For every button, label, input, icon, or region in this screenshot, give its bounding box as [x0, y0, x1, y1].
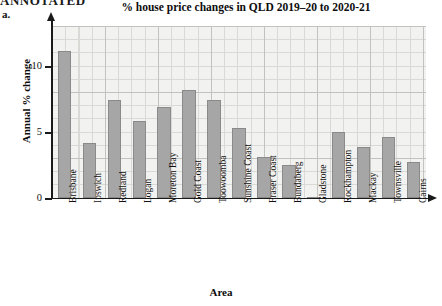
x-tick-label-sunshine-coast: Sunshine Coast — [243, 144, 253, 203]
x-tick-label-townsville: Townsville — [393, 161, 403, 203]
y-axis-arrow — [47, 12, 55, 21]
chart-title: % house price changes in QLD 2019–20 to … — [96, 1, 396, 13]
exercise-label: a. — [2, 8, 10, 20]
y-axis-title: Annual % change — [20, 41, 32, 161]
y-tick-mark-0 — [45, 198, 52, 200]
y-tick-mark-10 — [45, 66, 52, 68]
x-tick-label-logan: Logan — [143, 179, 153, 203]
x-tick-label-mackay: Mackay — [368, 172, 378, 203]
x-tick-label-rockhampton: Rockhampton — [343, 150, 353, 203]
x-axis-arrow — [428, 194, 437, 202]
y-axis-line — [51, 18, 53, 199]
x-tick-label-cairns: Cairns — [418, 178, 428, 203]
x-tick-label-moreton-bay: Moreton Bay — [168, 153, 178, 203]
x-tick-label-ipswich: Ipswich — [93, 173, 103, 203]
x-tick-label-brisbane: Brisbane — [68, 169, 78, 203]
x-axis-title: Area — [0, 286, 442, 298]
y-tick-label-0: 0 — [20, 192, 42, 203]
x-tick-label-gold-coast: Gold Coast — [193, 160, 203, 203]
x-tick-label-fraser-coast: Fraser Coast — [268, 155, 278, 203]
x-tick-label-redland: Redland — [118, 171, 128, 203]
x-tick-label-bundaberg: Bundaberg — [293, 161, 303, 203]
x-tick-label-gladstone: Gladstone — [318, 164, 328, 203]
x-tick-label-toowoomba: Toowoomba — [218, 156, 228, 203]
y-tick-mark-5 — [45, 132, 52, 134]
